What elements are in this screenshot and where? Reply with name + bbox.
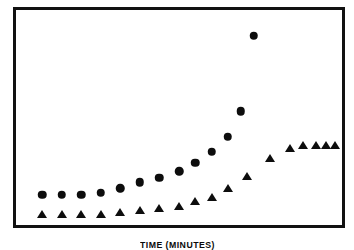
data-point-triangle: [154, 204, 164, 212]
data-point-triangle: [76, 210, 86, 218]
data-point-triangle: [115, 208, 125, 216]
data-point-circle: [250, 32, 259, 41]
data-point-triangle: [265, 154, 275, 162]
data-point-triangle: [223, 184, 233, 192]
data-point-circle: [237, 107, 246, 116]
data-point-triangle: [321, 141, 331, 149]
data-point-circle: [97, 189, 106, 198]
data-point-circle: [155, 173, 164, 182]
data-point-circle: [175, 167, 184, 176]
plot-frame: [13, 7, 345, 228]
data-point-circle: [77, 191, 86, 200]
data-point-triangle: [242, 172, 252, 180]
x-axis-label: TIME (MINUTES): [140, 239, 215, 250]
data-point-triangle: [330, 141, 340, 149]
data-point-circle: [38, 191, 47, 200]
data-point-triangle: [190, 197, 200, 205]
data-point-circle: [207, 148, 216, 157]
data-point-triangle: [298, 141, 308, 149]
data-point-circle: [116, 184, 125, 193]
data-point-triangle: [135, 206, 145, 214]
data-point-triangle: [57, 210, 67, 218]
data-point-circle: [57, 191, 66, 200]
plot-area: [16, 10, 342, 225]
data-point-triangle: [285, 144, 295, 152]
data-point-triangle: [311, 141, 321, 149]
data-point-circle: [136, 178, 145, 187]
data-point-triangle: [207, 193, 217, 201]
data-point-triangle: [37, 210, 47, 218]
data-point-circle: [224, 133, 233, 142]
data-point-triangle: [174, 202, 184, 210]
data-point-triangle: [96, 210, 106, 218]
data-point-circle: [191, 158, 200, 167]
